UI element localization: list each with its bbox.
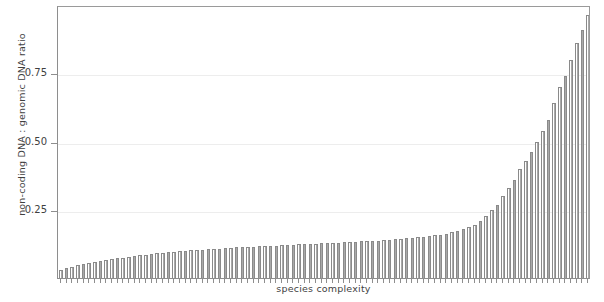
bar (76, 265, 80, 278)
bar (496, 205, 500, 278)
bar (235, 247, 239, 278)
bar (462, 229, 466, 278)
bar (411, 238, 415, 278)
bar (189, 250, 193, 278)
bar (473, 225, 477, 279)
bar (121, 258, 125, 278)
bar (207, 249, 211, 278)
bar (365, 241, 369, 278)
bar (133, 256, 137, 278)
bar (263, 246, 267, 278)
bar (360, 241, 364, 278)
bar (286, 245, 290, 278)
bar (507, 188, 511, 278)
bar (155, 253, 159, 278)
bar (184, 251, 188, 278)
bar (343, 242, 347, 278)
bar (303, 244, 307, 278)
y-axis-tick-label: 0.50 (0, 136, 47, 147)
bar (246, 247, 250, 278)
bar (445, 234, 449, 278)
bar (405, 238, 409, 278)
bar (439, 235, 443, 278)
bar (399, 239, 403, 278)
bar (354, 242, 358, 278)
bar (110, 259, 114, 278)
bar (269, 246, 273, 278)
bar (450, 232, 454, 278)
bar (581, 30, 585, 278)
bar (224, 248, 228, 278)
bar (371, 241, 375, 278)
bar (161, 253, 165, 278)
bar (348, 242, 352, 278)
y-axis-tick-label: 0.25 (0, 204, 47, 215)
bar (172, 252, 176, 278)
bar (513, 180, 517, 278)
bar (569, 60, 573, 278)
bar (229, 248, 233, 278)
bar (59, 270, 63, 278)
bar (337, 243, 341, 278)
bar (138, 255, 142, 278)
bar (258, 246, 262, 278)
bar (456, 231, 460, 278)
bar (320, 243, 324, 278)
bar (586, 15, 590, 278)
bar (524, 161, 528, 278)
bar (484, 216, 488, 278)
bar (212, 249, 216, 278)
bar (275, 246, 279, 278)
bar (326, 243, 330, 278)
bar (99, 261, 103, 278)
bar (547, 120, 551, 278)
bar (428, 236, 432, 278)
bar (490, 210, 494, 278)
bar (297, 244, 301, 278)
bar (144, 255, 148, 278)
bar (541, 131, 545, 278)
bar (479, 221, 483, 278)
bar (422, 237, 426, 278)
bar (518, 169, 522, 278)
bar (116, 258, 120, 278)
bar (167, 252, 171, 278)
bar (241, 247, 245, 278)
bar (501, 196, 505, 278)
bar (82, 264, 86, 278)
bar (280, 245, 284, 278)
bar-series (58, 7, 589, 278)
y-axis-tick-label: 0.75 (0, 67, 47, 78)
bar (65, 268, 69, 278)
bar (433, 235, 437, 278)
bar (314, 244, 318, 278)
bar (93, 262, 97, 278)
bar (201, 250, 205, 278)
bar (564, 76, 568, 278)
x-axis-title: species complexity (57, 283, 590, 294)
chart-figure: non-coding DNA : genomic DNA ratio 0.250… (0, 0, 604, 302)
bar (394, 239, 398, 278)
bar (388, 240, 392, 278)
bar (558, 87, 562, 278)
bar (70, 267, 74, 278)
bar (309, 244, 313, 278)
bar (178, 251, 182, 278)
bar (331, 243, 335, 278)
bar (104, 260, 108, 278)
bar (530, 152, 534, 278)
bar (377, 241, 381, 278)
bar (195, 250, 199, 278)
bar (382, 240, 386, 278)
bar (218, 249, 222, 278)
bar (467, 227, 471, 278)
bar (552, 103, 556, 278)
plot-area (57, 6, 590, 279)
bar (535, 142, 539, 279)
bar (127, 257, 131, 278)
bar (87, 263, 91, 278)
bar (575, 43, 579, 278)
bar (252, 247, 256, 278)
bar (292, 245, 296, 278)
bar (416, 237, 420, 278)
